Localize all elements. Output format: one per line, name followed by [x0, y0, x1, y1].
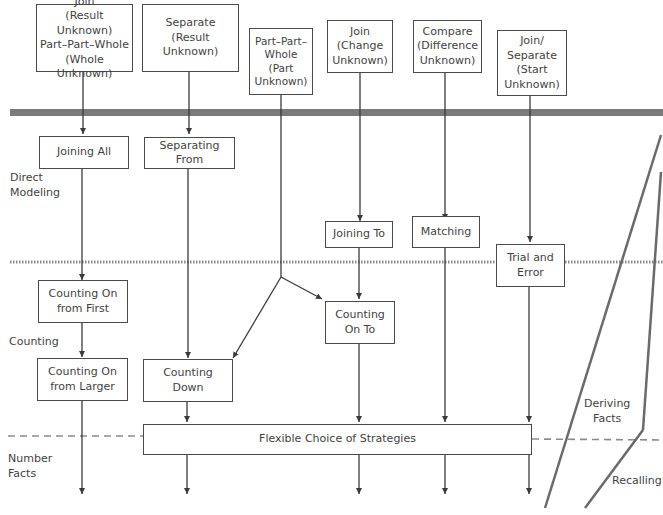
problem-type-ppw-part-unknown: Part–Part– Whole (Part Unknown)	[249, 28, 313, 95]
box-label: Join (Change Unknown)	[332, 25, 387, 69]
problem-type-divider-band	[10, 109, 663, 116]
level-label-number-facts: Number Facts	[8, 452, 52, 481]
box-label: Separating From	[145, 139, 234, 168]
box-label: Separate (Result Unknown)	[143, 16, 238, 60]
strategy-counting-on-to: Counting On To	[325, 301, 395, 344]
level-label-counting: Counting	[9, 335, 59, 350]
box-label: Flexible Choice of Strategies	[259, 432, 416, 447]
strategy-joining-to: Joining To	[325, 221, 393, 248]
box-label: Counting On To	[335, 308, 385, 337]
level-label-recalling: Recalling	[612, 474, 662, 489]
box-label: Counting On from Larger	[48, 365, 117, 394]
problem-type-separate-result-unknown: Separate (Result Unknown)	[142, 4, 239, 72]
problem-type-compare-difference-unknown: Compare (Difference Unknown)	[413, 20, 482, 73]
box-label: Joining To	[333, 227, 385, 242]
strategy-matching: Matching	[412, 216, 480, 248]
strategy-trial-and-error: Trial and Error	[496, 244, 565, 287]
deriving-facts-boundary-left	[545, 135, 661, 508]
strategy-counting-on-from-larger: Counting On from Larger	[37, 358, 128, 401]
recalling-boundary	[585, 430, 643, 508]
arrow-ppw-to-counting-down	[233, 277, 281, 358]
box-label: Compare (Difference Unknown)	[417, 25, 478, 69]
box-label: Trial and Error	[507, 251, 554, 280]
problem-type-join-result-unknown: Join (Result Unknown) Part–Part–Whole (W…	[36, 4, 133, 72]
box-label: Matching	[421, 225, 472, 240]
strategy-joining-all: Joining All	[39, 136, 129, 169]
problem-type-join-separate-start-unknown: Join/ Separate (Start Unknown)	[497, 30, 567, 96]
strategy-flexible-choice: Flexible Choice of Strategies	[143, 424, 532, 455]
strategy-separating-from: Separating From	[144, 137, 235, 169]
box-label: Join/ Separate (Start Unknown)	[504, 34, 559, 92]
level-label-direct-modeling: Direct Modeling	[10, 171, 60, 200]
arrow-ppw-to-counting-on-to	[281, 277, 322, 299]
box-label: Counting Down	[163, 366, 213, 395]
deriving-facts-boundary-right	[643, 172, 661, 430]
box-label: Counting On from First	[49, 287, 118, 316]
box-label: Part–Part– Whole (Part Unknown)	[255, 35, 308, 89]
strategy-counting-down: Counting Down	[143, 359, 233, 402]
strategy-counting-on-from-first: Counting On from First	[38, 280, 128, 323]
level-label-deriving-facts: Deriving Facts	[584, 397, 630, 426]
box-label: Join (Result Unknown) Part–Part–Whole (W…	[37, 0, 132, 82]
box-label: Joining All	[57, 145, 111, 160]
counting-number-facts-divider-right	[532, 439, 663, 440]
problem-type-join-change-unknown: Join (Change Unknown)	[327, 20, 393, 73]
